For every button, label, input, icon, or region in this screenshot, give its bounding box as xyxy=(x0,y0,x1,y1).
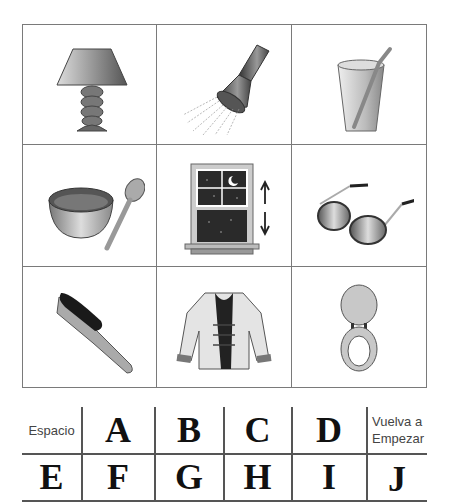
key-b[interactable]: B xyxy=(155,407,223,453)
jacket-icon xyxy=(169,277,279,377)
picture-sunglasses[interactable] xyxy=(292,145,426,267)
bowl-icon xyxy=(35,156,145,256)
space-key[interactable]: Espacio xyxy=(22,407,81,453)
glass-icon xyxy=(304,35,414,135)
key-e[interactable]: E xyxy=(22,454,81,500)
picture-glass[interactable] xyxy=(292,25,426,145)
picture-bowl[interactable] xyxy=(23,145,157,267)
key-f[interactable]: F xyxy=(82,454,154,500)
key-a[interactable]: A xyxy=(82,407,154,453)
key-c[interactable]: C xyxy=(224,407,291,453)
key-h[interactable]: H xyxy=(224,454,291,500)
window-icon xyxy=(169,156,279,256)
key-g[interactable]: G xyxy=(155,454,223,500)
shower-icon xyxy=(169,35,279,135)
picture-lamp[interactable] xyxy=(23,25,157,145)
key-d[interactable]: D xyxy=(292,407,366,453)
picture-toilet-seat[interactable] xyxy=(292,267,426,387)
sunglasses-icon xyxy=(304,156,414,256)
key-i[interactable]: I xyxy=(292,454,366,500)
letter-keyboard: Espacio A B C D Vuelva aEmpezar E F G H … xyxy=(0,407,449,502)
brush-icon xyxy=(35,277,145,377)
lamp-icon xyxy=(35,35,145,135)
picture-window[interactable] xyxy=(157,145,292,267)
toilet-seat-icon xyxy=(304,277,414,377)
picture-grid xyxy=(22,24,427,388)
key-j[interactable]: J xyxy=(367,454,427,502)
picture-shower[interactable] xyxy=(157,25,292,145)
picture-brush[interactable] xyxy=(23,267,157,387)
restart-key[interactable]: Vuelva aEmpezar xyxy=(372,407,449,453)
picture-jacket[interactable] xyxy=(157,267,292,387)
